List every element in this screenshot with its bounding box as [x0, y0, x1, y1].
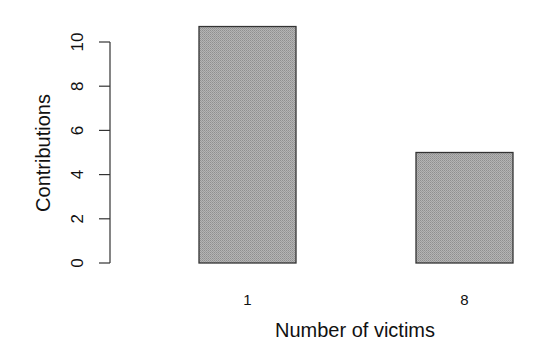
x-tick-label: 1 — [243, 291, 251, 308]
y-tick-label: 0 — [68, 258, 87, 267]
y-tick-label: 6 — [68, 126, 87, 135]
bar-1 — [199, 27, 296, 263]
y-axis: 0246810 — [68, 33, 110, 268]
y-tick-label: 8 — [68, 81, 87, 90]
x-tick-label: 8 — [460, 291, 468, 308]
y-tick-label: 2 — [68, 214, 87, 223]
bar-chart: 0246810 18 Contributions Number of victi… — [0, 0, 541, 359]
y-tick-label: 10 — [68, 33, 87, 52]
x-tick-labels: 18 — [243, 291, 468, 308]
bars — [199, 27, 513, 263]
y-axis-title: Contributions — [32, 94, 54, 212]
bar-8 — [416, 153, 513, 264]
x-axis-title: Number of victims — [275, 319, 435, 341]
y-tick-label: 4 — [68, 170, 87, 179]
